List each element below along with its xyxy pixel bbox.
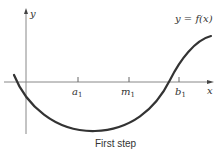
function-curve xyxy=(14,36,211,131)
tick-label-m1: m1 xyxy=(121,87,135,99)
curve-label: y = f(x) xyxy=(175,14,213,24)
x-axis xyxy=(4,80,214,84)
caption: First step xyxy=(95,138,136,149)
y-axis-arrow-icon xyxy=(24,8,28,14)
x-axis-label: x xyxy=(207,86,213,96)
diagram-canvas: y x y = f(x) a1 m1 b1 First step xyxy=(0,0,224,155)
tick-label-b1: b1 xyxy=(175,87,186,99)
tick-label-a1: a1 xyxy=(72,87,82,99)
y-axis-label: y xyxy=(30,9,36,19)
x-axis-arrow-icon xyxy=(207,80,214,84)
y-axis xyxy=(24,8,28,134)
tick-marks xyxy=(78,77,179,82)
